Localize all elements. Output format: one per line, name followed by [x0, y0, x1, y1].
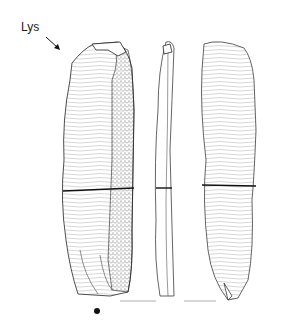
dorsal-view	[62, 42, 134, 296]
profile-view	[155, 42, 174, 296]
light-direction-arrow	[46, 37, 60, 50]
orientation-dot	[94, 308, 100, 314]
blade-drawing	[0, 0, 297, 326]
ventral-view	[202, 42, 257, 300]
